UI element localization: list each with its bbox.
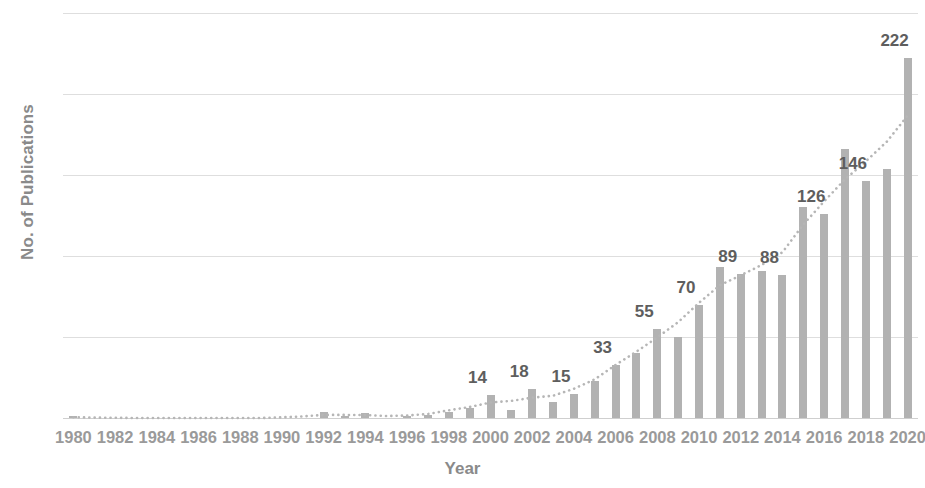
gridline-250 <box>63 13 918 14</box>
data-label-2014: 88 <box>760 248 779 268</box>
gridline-50 <box>63 337 918 338</box>
bar-2004 <box>570 394 578 418</box>
bar-2019 <box>883 169 891 418</box>
x-tick-label-2010: 2010 <box>681 428 718 447</box>
x-tick-label-2000: 2000 <box>472 428 509 447</box>
gridline-0 <box>63 418 918 419</box>
publications-bar-chart: No. of Publications 050100150200250 1418… <box>0 0 925 488</box>
bar-2008 <box>653 329 661 418</box>
bar-2011 <box>716 267 724 418</box>
gridline-200 <box>63 94 918 95</box>
x-tick-label-2002: 2002 <box>514 428 551 447</box>
x-tick-label-2004: 2004 <box>556 428 593 447</box>
trendline <box>63 13 918 418</box>
bar-1996 <box>403 416 411 418</box>
bar-2000 <box>487 395 495 418</box>
bar-2012 <box>737 274 745 418</box>
gridline-100 <box>63 256 918 257</box>
bar-2017 <box>841 149 849 418</box>
bar-2014 <box>778 275 786 418</box>
data-label-2004: 15 <box>551 367 570 387</box>
bar-1997 <box>424 415 432 418</box>
data-label-2018: 146 <box>839 154 867 174</box>
bar-1980 <box>69 416 77 418</box>
x-axis-title: Year <box>0 459 925 479</box>
bar-2009 <box>674 337 682 418</box>
bar-2020 <box>904 58 912 418</box>
x-tick-label-2014: 2014 <box>764 428 801 447</box>
data-label-2020: 222 <box>880 31 908 51</box>
bar-2007 <box>632 353 640 418</box>
bar-2010 <box>695 305 703 418</box>
bar-1998 <box>445 412 453 418</box>
x-tick-label-1996: 1996 <box>389 428 426 447</box>
data-label-2016: 126 <box>797 187 825 207</box>
bar-2005 <box>591 381 599 418</box>
x-tick-label-2006: 2006 <box>597 428 634 447</box>
x-tick-label-2020: 2020 <box>889 428 925 447</box>
data-label-2008: 55 <box>635 302 654 322</box>
bar-1993 <box>341 416 349 418</box>
bar-1994 <box>361 413 369 418</box>
x-tick-label-2008: 2008 <box>639 428 676 447</box>
x-tick-label-1986: 1986 <box>180 428 217 447</box>
gridline-150 <box>63 175 918 176</box>
bar-2002 <box>528 389 536 418</box>
x-tick-label-1998: 1998 <box>430 428 467 447</box>
y-axis-title: No. of Publications <box>18 62 38 302</box>
x-tick-label-1984: 1984 <box>138 428 175 447</box>
x-tick-label-2016: 2016 <box>806 428 843 447</box>
bar-2001 <box>507 410 515 418</box>
data-label-2006: 33 <box>593 338 612 358</box>
x-tick-label-1990: 1990 <box>264 428 301 447</box>
bar-1992 <box>320 412 328 418</box>
x-tick-label-2018: 2018 <box>848 428 885 447</box>
bar-2003 <box>549 402 557 418</box>
bar-2016 <box>820 214 828 418</box>
x-tick-label-1982: 1982 <box>97 428 134 447</box>
x-tick-label-1988: 1988 <box>222 428 259 447</box>
data-label-2010: 70 <box>677 278 696 298</box>
bar-2018 <box>862 181 870 418</box>
x-tick-label-1992: 1992 <box>305 428 342 447</box>
data-label-2000: 14 <box>468 368 487 388</box>
data-label-2002: 18 <box>510 362 529 382</box>
x-tick-label-2012: 2012 <box>722 428 759 447</box>
x-tick-label-1980: 1980 <box>55 428 92 447</box>
bar-1999 <box>466 408 474 418</box>
x-tick-label-1994: 1994 <box>347 428 384 447</box>
bar-2013 <box>758 271 766 418</box>
x-axis-tick-labels: 1980198219841986198819901992199419961998… <box>63 428 918 454</box>
data-label-2012: 89 <box>718 247 737 267</box>
bar-2015 <box>799 207 807 418</box>
plot-area: 050100150200250 141815335570898812614622… <box>63 13 918 418</box>
bar-2006 <box>612 365 620 418</box>
